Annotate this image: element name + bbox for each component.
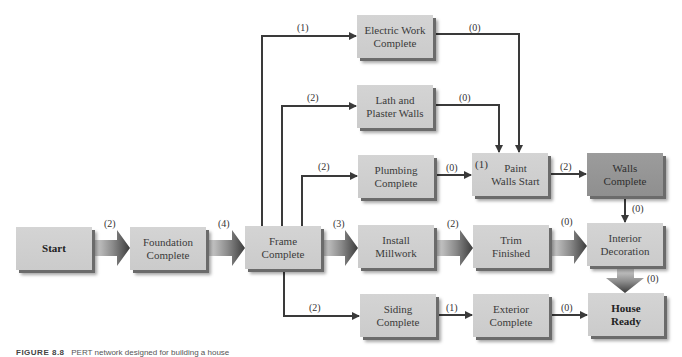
edge-label-start-foundation: (2) <box>104 218 116 229</box>
node-siding-label: Siding Complete <box>377 303 420 329</box>
edge-label-frame-plumbing: (2) <box>318 161 330 172</box>
node-interior-decoration: Interior Decoration <box>587 223 663 266</box>
fat-arrow-interior-house <box>606 268 644 293</box>
line-electric-paint <box>435 34 519 152</box>
edge-label-lath-paint: (0) <box>459 92 471 103</box>
node-frame-complete: Frame Complete <box>245 226 321 269</box>
edge-label-plumbing-paint: (0) <box>446 162 458 173</box>
edge-label-frame-electric: (1) <box>297 22 309 33</box>
node-exterior-complete: Exterior Complete <box>473 294 549 337</box>
edge-label-foundation-frame: (4) <box>218 218 230 229</box>
line-lath-paint <box>435 105 499 152</box>
fat-arrow-frame-millwork <box>321 230 358 266</box>
node-frame-label: Frame Complete <box>262 235 305 261</box>
edge-label-frame-lath: (2) <box>307 92 319 103</box>
edge-label-frame-millwork: (3) <box>333 218 345 229</box>
edge-label-trim-interior: (0) <box>561 216 573 227</box>
line-frame-plumbing <box>302 176 357 226</box>
node-start: Start <box>16 227 92 270</box>
edge-label-paint-walls: (2) <box>560 161 572 172</box>
edge-label-frame-siding: (2) <box>309 302 321 313</box>
node-foundation-complete: Foundation Complete <box>130 227 206 270</box>
fat-arrow-trim-interior <box>550 230 587 264</box>
fat-arrow-millwork-trim <box>435 230 473 266</box>
node-lath-label: Lath and Plaster Walls <box>366 94 423 120</box>
figure-caption-text: PERT network designed for building a hou… <box>71 348 229 357</box>
edge-label-electric-paint: (0) <box>469 22 481 33</box>
node-electric-label: Electric Work Complete <box>365 24 426 50</box>
node-foundation-label: Foundation Complete <box>143 236 193 262</box>
node-trim-finished: Trim Finished <box>473 225 549 268</box>
node-siding-complete: Siding Complete <box>360 294 436 337</box>
node-house-label: House Ready <box>611 302 641 328</box>
node-interior-label: Interior Decoration <box>601 232 650 258</box>
node-paint-prefix: (1) <box>475 158 488 171</box>
figure-caption-label: FIGURE 8.8 <box>16 348 65 357</box>
node-house-ready: House Ready <box>588 293 664 336</box>
node-trim-label: Trim Finished <box>492 234 530 260</box>
node-walls-label: Walls Complete <box>604 162 647 188</box>
line-frame-siding <box>284 270 359 316</box>
fat-arrow-start-foundation <box>92 230 130 266</box>
node-start-label: Start <box>42 242 66 255</box>
node-paint-walls-start: (1) Paint Walls Start <box>472 153 548 196</box>
edge-label-millwork-trim: (2) <box>447 218 459 229</box>
edge-label-interior-house: (0) <box>647 273 659 284</box>
fat-arrow-foundation-frame <box>207 230 245 266</box>
node-millwork-label: Install Millwork <box>375 234 417 260</box>
node-install-millwork: Install Millwork <box>358 225 434 268</box>
node-walls-complete: Walls Complete <box>587 153 663 196</box>
node-exterior-label: Exterior Complete <box>490 303 533 329</box>
node-paint-label: Paint Walls Start <box>491 162 539 188</box>
edge-label-siding-exterior: (1) <box>446 302 458 313</box>
node-plumbing-label: Plumbing Complete <box>375 164 418 190</box>
edge-label-walls-interior: (0) <box>632 203 644 214</box>
node-plumbing-complete: Plumbing Complete <box>358 155 434 198</box>
figure-caption: FIGURE 8.8 PERT network designed for bui… <box>16 348 229 357</box>
line-frame-electric <box>262 36 356 226</box>
edge-label-exterior-house: (0) <box>561 302 573 313</box>
node-lath-plaster-walls: Lath and Plaster Walls <box>357 85 433 128</box>
node-electric-work-complete: Electric Work Complete <box>357 15 433 58</box>
